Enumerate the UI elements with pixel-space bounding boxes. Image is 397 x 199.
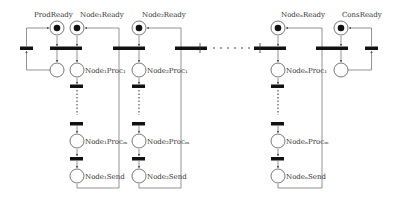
label-node2-procm: Node₂Procₘ [147,138,190,146]
place-noden-send [271,169,285,183]
token-noden-ready [275,25,282,32]
transition-node1-stepm [70,122,83,126]
label-node1-ready: Node₁Ready [80,11,124,19]
place-node2-procm [132,134,146,148]
token-node2-ready [136,25,143,32]
node2-group: Node₂Ready Node₂Proc₁ Node₂Procₘ Node₂Se… [132,11,190,188]
place-node1-procm [70,134,84,148]
transition-node2-to-next [175,47,207,51]
place-node1-proc1 [70,63,84,77]
transition-noden-send [271,157,284,161]
token-cons-ready [338,25,345,32]
transition-prod-to-node1 [50,47,82,51]
place-node2-send [132,169,146,183]
transition-consume [365,47,378,51]
label-prod-ready: ProdReady [34,11,73,19]
label-node1-proc1: Node₁Proc₁ [85,67,126,75]
place-prod-done [50,63,64,77]
noden-group: NodeₙReady NodeₙProc₁ NodeₙProcₘ NodeₙSe… [271,11,329,188]
place-cons-done [334,63,348,77]
transition-node2-stepm [132,122,145,126]
transition-prev-to-noden [254,47,286,51]
transition-noden-step1 [271,85,284,89]
label-noden-send: NodeₙSend [286,173,326,181]
producer-group: ProdReady [20,11,73,77]
node1-group: Node₁Ready Node₁Proc₁ Node₁Procₘ Node₁Se… [70,11,128,188]
consumer-group: ConsReady [334,11,382,77]
place-noden-procm [271,134,285,148]
transition-node1-step1 [70,85,83,89]
transition-produce [20,47,33,51]
transition-node2-step1 [132,85,145,89]
label-noden-proc1: NodeₙProc₁ [286,67,327,75]
transition-noden-to-cons [316,47,348,51]
petri-net-diagram: ProdReady Node₁Ready Node₁Proc₁ Node₁Pro… [0,0,397,199]
label-node1-procm: Node₁Procₘ [85,138,128,146]
label-node2-proc1: Node₂Proc₁ [147,67,188,75]
place-noden-proc1 [271,63,285,77]
label-noden-ready: NodeₙReady [281,11,325,19]
transition-node1-to-node2 [113,47,145,51]
transition-node1-send [70,157,83,161]
label-node2-ready: Node₂Ready [142,11,186,19]
transition-node2-send [132,157,145,161]
token-prod-ready [54,25,61,32]
place-node2-proc1 [132,63,146,77]
token-node1-ready [74,25,81,32]
label-noden-procm: NodeₙProcₘ [286,138,329,146]
transition-noden-stepm [271,122,284,126]
place-node1-send [70,169,84,183]
label-cons-ready: ConsReady [342,11,382,19]
ellipsis [213,47,250,49]
